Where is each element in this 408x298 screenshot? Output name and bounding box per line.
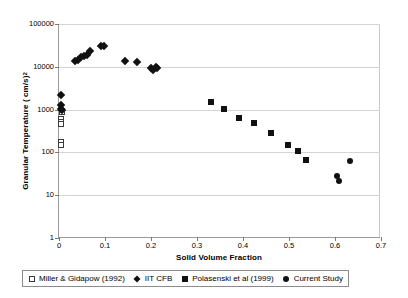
x-tick-label: 0.7: [376, 242, 386, 250]
gridline: [59, 110, 380, 111]
plot-area: 110100100010000100000 00.10.20.30.40.50.…: [58, 24, 380, 238]
data-point: [86, 46, 94, 54]
legend-label: Polasenski et al (1999): [192, 275, 273, 283]
gridline: [59, 152, 380, 153]
legend-label: Current Study: [294, 275, 343, 283]
data-point: [58, 142, 64, 148]
y-tick-label: 100000: [29, 20, 54, 28]
y-tick-mark: [55, 67, 59, 68]
legend-marker-icon: [134, 275, 141, 282]
y-axis-label: Granular Temperature ( cm/s)2: [19, 24, 31, 238]
data-point: [268, 130, 274, 136]
gridline: [59, 195, 380, 196]
x-tick-label: 0.6: [330, 242, 340, 250]
data-point: [133, 58, 141, 66]
legend-label: Miller & Gidapow (1992): [39, 275, 125, 283]
x-tick-label: 0: [57, 242, 61, 250]
y-tick-label: 1000: [37, 106, 54, 114]
legend-marker-icon: [181, 275, 188, 282]
gridline: [59, 24, 380, 25]
x-tick-label: 0.1: [100, 242, 110, 250]
granular-temperature-chart: 110100100010000100000 00.10.20.30.40.50.…: [0, 0, 408, 298]
legend-label: IIT CFB: [145, 275, 172, 283]
y-tick-mark: [55, 152, 59, 153]
legend-marker-icon: [283, 275, 290, 282]
x-tick-label: 0.3: [192, 242, 202, 250]
data-point: [336, 178, 342, 184]
data-point: [57, 91, 65, 99]
x-tick-label: 0.5: [284, 242, 294, 250]
y-tick-mark: [55, 24, 59, 25]
y-axis-label-text: Granular Temperature ( cm/s): [21, 76, 30, 190]
data-point: [303, 157, 309, 163]
legend-entry[interactable]: Current Study: [283, 275, 343, 283]
x-tick-label: 0.2: [146, 242, 156, 250]
data-point: [285, 142, 291, 148]
data-point: [58, 121, 64, 127]
y-tick-label: 1: [50, 234, 54, 242]
data-point: [295, 148, 301, 154]
gridline: [59, 67, 380, 68]
y-tick-label: 100: [41, 149, 54, 157]
x-axis-label: Solid Volume Fraction: [58, 253, 380, 262]
legend-entry[interactable]: IIT CFB: [134, 275, 172, 283]
data-point: [221, 106, 227, 112]
y-tick-label: 10: [46, 191, 54, 199]
legend: Miller & Gidapow (1992)IIT CFBPolasenski…: [22, 270, 349, 287]
y-tick-mark: [55, 195, 59, 196]
data-point: [251, 120, 257, 126]
plot-right-edge: [379, 24, 380, 237]
data-point: [121, 56, 129, 64]
data-point: [208, 99, 214, 105]
legend-entry[interactable]: Miller & Gidapow (1992): [28, 275, 125, 283]
legend-entry[interactable]: Polasenski et al (1999): [181, 275, 273, 283]
x-tick-label: 0.4: [238, 242, 248, 250]
y-tick-label: 10000: [33, 63, 54, 71]
legend-marker-icon: [28, 275, 35, 282]
data-point: [347, 158, 353, 164]
y-axis-label-exponent: 2: [22, 72, 28, 75]
data-point: [236, 115, 242, 121]
